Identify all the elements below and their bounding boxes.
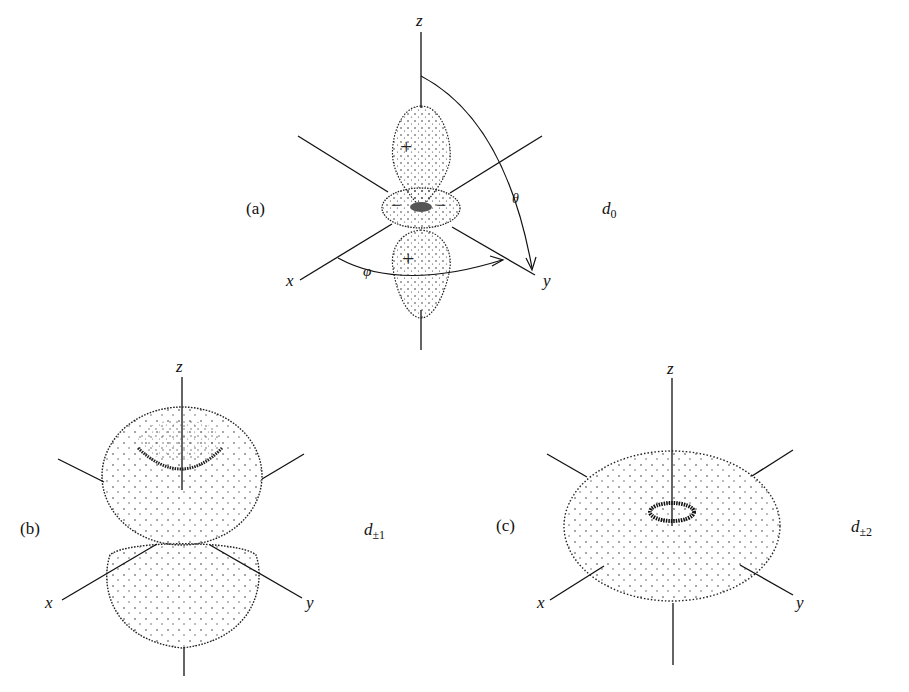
panel-label-c: (c) [496,517,515,534]
phi-label: φ [363,264,371,279]
ring-hole [410,202,432,212]
orbital-label-d-pm1: d±1 [364,521,385,541]
orbital-subscript: ±1 [373,528,386,542]
orbital-label-d0: d0 [602,200,617,220]
x-axis-label-b: x [45,594,53,611]
panel-b-drawing [58,377,304,676]
x-axis-label-a: x [286,272,294,289]
phi-arrowhead [490,256,503,266]
z-axis-label-a: z [416,12,423,29]
ring-left-sign: − [391,196,401,214]
y-axis-label-b: y [306,594,314,611]
flat-torus-c [564,451,780,601]
y-axis-a [452,227,535,275]
axis-back-left-b [58,459,104,482]
z-axis-label-b: z [176,358,183,375]
z-axis-label-c: z [667,360,674,377]
lower-lobe-sign: + [402,248,414,270]
x-axis-label-c: x [537,594,545,611]
orbital-symbol: d [851,517,860,536]
upper-lobe-sign: + [400,136,412,158]
orbital-symbol: d [364,520,373,539]
panel-label-a: (a) [246,200,265,217]
orbital-diagram [0,0,909,692]
x-axis-c [550,566,604,600]
axis-back-right-b [262,454,304,479]
y-axis-label-a: y [543,272,551,289]
x-axis-a [300,224,392,280]
y-axis-label-c: y [796,594,804,611]
panel-c-drawing [547,378,793,665]
orbital-subscript: 0 [611,207,617,221]
axis-back-left-a [298,136,388,192]
axis-back-left-c [547,454,587,477]
panel-a-drawing [298,32,542,350]
y-axis-c [740,565,793,595]
ring-right-sign: − [436,196,446,214]
orbital-symbol: d [602,199,611,218]
theta-label: θ [512,192,519,206]
orbital-label-d-pm2: d±2 [851,518,872,538]
axis-back-right-a [450,136,542,193]
orbital-subscript: ±2 [860,525,873,539]
panel-label-b: (b) [20,520,40,537]
lower-lobe [392,230,450,318]
axis-back-right-c [752,450,793,476]
